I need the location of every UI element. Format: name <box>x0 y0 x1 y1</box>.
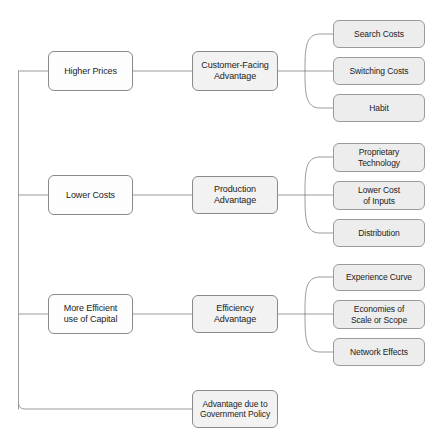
node-advantage-due-to-government-policy[interactable]: Advantage due to Government Policy <box>192 390 278 428</box>
node-label: Experience Curve <box>337 272 421 282</box>
node-higher-prices[interactable]: Higher Prices <box>48 51 133 91</box>
node-efficiency-advantage[interactable]: Efficiency Advantage <box>192 295 278 333</box>
fan-customer-facing-to-habit <box>305 71 333 108</box>
node-switching-costs[interactable]: Switching Costs <box>333 57 425 85</box>
node-label: Economies of Scale or Scope <box>337 304 421 325</box>
node-label-line: Economies of <box>337 304 421 314</box>
node-lower-costs[interactable]: Lower Costs <box>48 175 133 215</box>
node-search-costs[interactable]: Search Costs <box>333 20 425 48</box>
node-label: Network Effects <box>337 347 421 357</box>
node-label-line: Proprietary <box>337 147 421 157</box>
node-production-advantage[interactable]: Production Advantage <box>192 176 278 214</box>
node-habit[interactable]: Habit <box>333 94 425 122</box>
node-label: Distribution <box>337 228 421 238</box>
node-economies-of-scale-or-scope[interactable]: Economies of Scale or Scope <box>333 300 425 329</box>
node-label-line: use of Capital <box>52 314 129 325</box>
fan-efficiency-to-network-effects <box>305 314 333 352</box>
node-label: Customer-Facing Advantage <box>196 60 274 82</box>
node-label-line: Scale or Scope <box>337 315 421 325</box>
node-proprietary-technology[interactable]: Proprietary Technology <box>333 143 425 172</box>
node-label-line: Customer-Facing <box>196 60 274 71</box>
node-label: Production Advantage <box>196 184 274 206</box>
node-experience-curve[interactable]: Experience Curve <box>333 264 425 291</box>
node-label: Lower Costs <box>52 190 129 201</box>
node-label-line: Advantage <box>196 195 274 206</box>
node-customer-facing-advantage[interactable]: Customer-Facing Advantage <box>192 51 278 91</box>
node-label-line: Advantage <box>196 314 274 325</box>
node-label: Advantage due to Government Policy <box>196 399 274 420</box>
competitive-advantage-diagram: Higher Prices Customer-Facing Advantage … <box>0 0 441 446</box>
node-label: Search Costs <box>337 29 421 39</box>
fan-customer-facing-to-search-costs <box>305 34 333 71</box>
node-label: More Efficient use of Capital <box>52 303 129 325</box>
node-network-effects[interactable]: Network Effects <box>333 338 425 366</box>
node-distribution[interactable]: Distribution <box>333 219 425 247</box>
node-label-line: Advantage due to <box>196 399 274 409</box>
node-label: Habit <box>337 103 421 113</box>
node-label-line: Advantage <box>196 71 274 82</box>
fan-production-to-distribution <box>305 195 333 233</box>
node-label-line: More Efficient <box>52 303 129 314</box>
node-label: Efficiency Advantage <box>196 303 274 325</box>
node-label: Proprietary Technology <box>337 147 421 168</box>
node-label-line: Technology <box>337 158 421 168</box>
node-more-efficient-use-of-capital[interactable]: More Efficient use of Capital <box>48 294 133 334</box>
node-label: Switching Costs <box>337 66 421 76</box>
node-label-line: Lower Cost <box>337 185 421 195</box>
fan-production-to-proprietary-technology <box>305 157 333 195</box>
node-label-line: Government Policy <box>196 409 274 419</box>
trunk-to-government-policy <box>19 403 193 409</box>
node-lower-cost-of-inputs[interactable]: Lower Cost of Inputs <box>333 181 425 210</box>
node-label: Lower Cost of Inputs <box>337 185 421 206</box>
fan-efficiency-to-experience-curve <box>305 277 333 314</box>
node-label-line: Efficiency <box>196 303 274 314</box>
node-label-line: Production <box>196 184 274 195</box>
node-label: Higher Prices <box>52 66 129 77</box>
node-label-line: of Inputs <box>337 196 421 206</box>
